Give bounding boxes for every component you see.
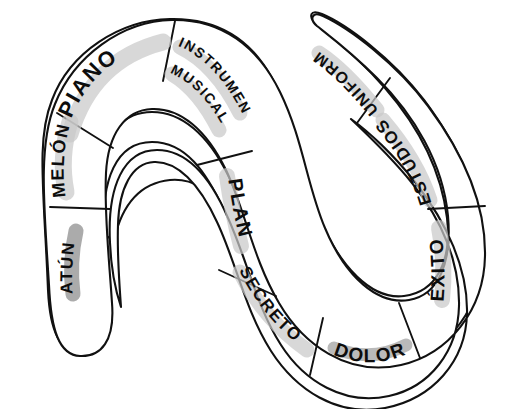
snake-track-svg: ATÚN MELÓN PIANO INSTRUMENTO	[0, 0, 511, 409]
word-exito: ÉXITO	[425, 237, 448, 302]
word-snake-board: ATÚN MELÓN PIANO INSTRUMENTO	[0, 0, 511, 409]
word-atun: ATÚN	[57, 240, 78, 294]
